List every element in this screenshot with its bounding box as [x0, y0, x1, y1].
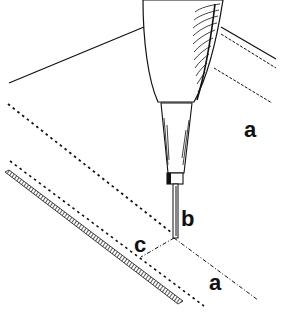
label-a-top: a	[244, 117, 257, 142]
pen-barrel	[143, 0, 223, 102]
paper-edge-line	[9, 27, 144, 83]
label-a-bottom: a	[209, 270, 222, 295]
dashed-line-top	[221, 34, 276, 68]
ruler-edge-line-top	[221, 27, 276, 59]
collar-shadow	[167, 173, 171, 184]
dotted-line-top	[214, 68, 272, 103]
label-b: b	[181, 206, 194, 231]
technical-pen-illustration: a b c a	[0, 0, 281, 324]
label-c: c	[134, 232, 146, 257]
beaded-line-upper	[8, 104, 172, 233]
ruler-hatched-edge	[5, 170, 183, 304]
